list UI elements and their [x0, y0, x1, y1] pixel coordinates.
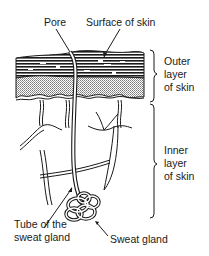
label-outer-layer-line3: of skin — [164, 81, 194, 94]
label-inner-layer-line3: of skin — [164, 170, 194, 183]
label-outer-layer-line1: Outer — [164, 55, 194, 68]
outer-layer-brace — [150, 50, 157, 102]
inner-layer-brace — [150, 104, 157, 218]
label-tube: Tube of the sweat gland — [14, 218, 70, 244]
label-inner-layer-line1: Inner — [164, 144, 194, 157]
outer-layer-stippled — [16, 76, 144, 98]
label-tube-line1: Tube of the — [14, 218, 70, 231]
outer-layer-striped — [16, 51, 144, 78]
label-outer-layer-line2: layer — [164, 68, 194, 81]
label-inner-layer: Inner layer of skin — [164, 144, 194, 183]
label-inner-layer-line2: layer — [164, 157, 194, 170]
label-pore: Pore — [44, 16, 66, 29]
label-outer-layer: Outer layer of skin — [164, 55, 194, 94]
label-tube-line2: sweat gland — [14, 231, 70, 244]
label-surface-of-skin: Surface of skin — [86, 16, 155, 29]
label-sweat-gland: Sweat gland — [110, 233, 168, 246]
